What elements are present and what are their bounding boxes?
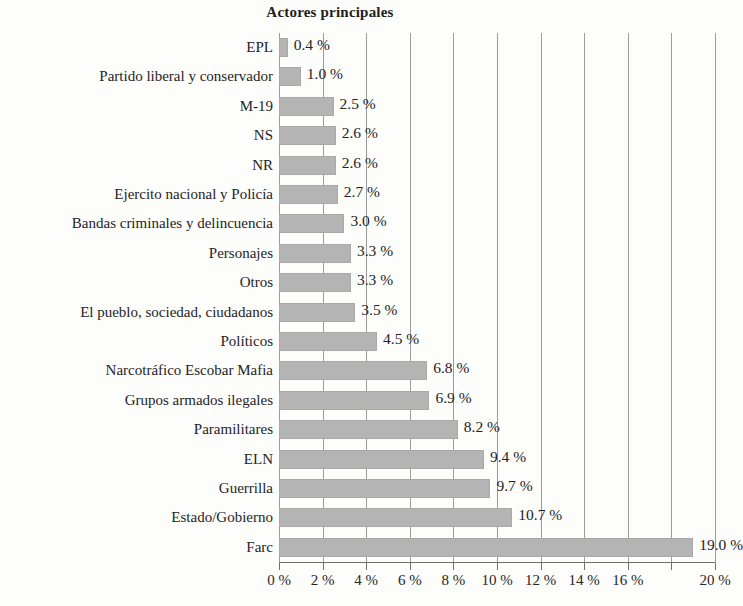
tick-label: 10 % [481,572,512,589]
bar-row: 8.2 % [279,415,715,444]
bar[interactable] [279,126,336,145]
tick-label: 0 % [267,572,291,589]
bar[interactable] [279,214,344,233]
bar-row: 2.6 % [279,151,715,180]
category-label: Bandas criminales y delincuencia [0,209,273,238]
bar-value-label: 2.5 % [340,95,376,113]
bar[interactable] [279,508,512,527]
bar-value-label: 2.7 % [344,183,380,201]
bar-value-label: 3.5 % [361,301,397,319]
bar-row: 3.5 % [279,298,715,327]
plot-area: 0.4 %1.0 %2.5 %2.6 %2.6 %2.7 %3.0 %3.3 %… [279,33,715,563]
category-label: Estado/Gobierno [0,503,273,532]
bar[interactable] [279,332,377,351]
bar-row: 19.0 % [279,533,715,562]
bar-row: 3.3 % [279,268,715,297]
bar-value-label: 1.0 % [307,65,343,83]
category-label: Ejercito nacional y Policía [0,180,273,209]
bar-value-label: 3.3 % [357,242,393,260]
bar-row: 1.0 % [279,62,715,91]
bar-value-label: 10.7 % [518,506,562,524]
bar[interactable] [279,244,351,263]
bar-row: 3.0 % [279,209,715,238]
bar-row: 2.7 % [279,180,715,209]
bar-row: 0.4 % [279,33,715,62]
category-label: Grupos armados ilegales [0,386,273,415]
bar[interactable] [279,97,334,116]
bar[interactable] [279,273,351,292]
bar-value-label: 4.5 % [383,330,419,348]
bar-row: 3.3 % [279,239,715,268]
bar-row: 2.5 % [279,92,715,121]
bar[interactable] [279,450,484,469]
category-label: Guerrilla [0,474,273,503]
category-label: NR [0,151,273,180]
tick-label: 4 % [354,572,378,589]
bar-rows: 0.4 %1.0 %2.5 %2.6 %2.6 %2.7 %3.0 %3.3 %… [279,33,715,563]
bar[interactable] [279,67,301,86]
category-label: EPL [0,33,273,62]
bar[interactable] [279,185,338,204]
bar-row: 9.7 % [279,474,715,503]
category-label: M-19 [0,92,273,121]
tick-label: 20 % [699,572,730,589]
category-label: Farc [0,533,273,562]
bar[interactable] [279,420,458,439]
bar-value-label: 2.6 % [342,154,378,172]
tick-mark [715,563,716,570]
tick-mark [497,563,498,570]
bar-value-label: 3.0 % [350,212,386,230]
category-label: Políticos [0,327,273,356]
bar-value-label: 9.4 % [490,448,526,466]
tick-mark [410,563,411,570]
bar[interactable] [279,303,355,322]
tick-mark [541,563,542,570]
bar-value-label: 9.7 % [496,477,532,495]
bar[interactable] [279,361,427,380]
bar-value-label: 6.9 % [435,389,471,407]
category-label: ELN [0,445,273,474]
bar[interactable] [279,156,336,175]
category-axis-labels: EPLPartido liberal y conservadorM-19NSNR… [0,33,273,563]
bar-row: 6.8 % [279,356,715,385]
tick-mark [584,563,585,570]
tick-mark [453,563,454,570]
bar-value-label: 2.6 % [342,124,378,142]
tick-mark [279,563,280,570]
bar-row: 2.6 % [279,121,715,150]
tick-label: 12 % [525,572,556,589]
category-label: Otros [0,268,273,297]
bar-row: 9.4 % [279,445,715,474]
category-label: Narcotráfico Escobar Mafia [0,356,273,385]
bar[interactable] [279,479,490,498]
bar[interactable] [279,38,288,57]
tick-mark [323,563,324,570]
tick-label: 2 % [311,572,335,589]
tick-mark [671,563,672,570]
bar-row: 4.5 % [279,327,715,356]
tick-label: 16 % [612,572,643,589]
bar-value-label: 0.4 % [294,36,330,54]
tick-label: 14 % [569,572,600,589]
bar[interactable] [279,391,429,410]
category-label: Partido liberal y conservador [0,62,273,91]
x-axis-tick-labels: 0 %2 %4 %6 %8 %10 %12 %14 %16 %20 % [0,572,736,600]
gridline [715,33,716,563]
tick-mark [628,563,629,570]
category-label: Personajes [0,239,273,268]
bar-value-label: 8.2 % [464,418,500,436]
bar-row: 6.9 % [279,386,715,415]
x-axis-tick-marks [279,563,715,571]
category-label: El pueblo, sociedad, ciudadanos [0,298,273,327]
chart-title: Actores principales [0,4,660,21]
category-label: NS [0,121,273,150]
category-label: Paramilitares [0,415,273,444]
bar-value-label: 3.3 % [357,271,393,289]
bar[interactable] [279,538,693,557]
bar-value-label: 6.8 % [433,359,469,377]
tick-label: 8 % [442,572,466,589]
bar-row: 10.7 % [279,503,715,532]
bar-value-label: 19.0 % [699,536,743,554]
tick-label: 6 % [398,572,422,589]
